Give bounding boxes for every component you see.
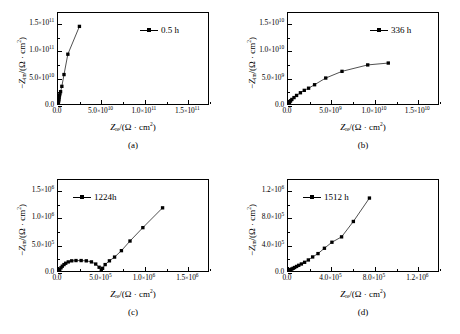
y-tick — [288, 218, 292, 219]
y-tick-label: 0.0 — [0, 268, 54, 276]
x-tick — [210, 102, 211, 104]
data-line — [289, 198, 370, 271]
legend-b: 336 h — [370, 25, 411, 35]
x-tick — [375, 100, 376, 104]
y-tick — [58, 246, 62, 247]
panel-caption-d: (d) — [287, 307, 439, 317]
y-tick — [288, 92, 290, 93]
x-tick-label: 5.0×1010 — [88, 107, 113, 115]
legend-line-left-icon — [73, 197, 80, 198]
y-tick — [58, 65, 60, 66]
legend-label-a: 0.5 h — [161, 25, 179, 35]
x-axis-title-b: Zre/(Ω · cm2) — [287, 122, 439, 132]
data-point — [330, 241, 333, 244]
data-point — [303, 89, 306, 92]
x-tick — [80, 269, 81, 271]
x-tick — [375, 267, 376, 271]
x-tick — [101, 267, 102, 271]
y-tick — [288, 24, 292, 25]
data-point — [62, 73, 65, 76]
x-tick — [123, 269, 124, 271]
x-axis-title-c: Zre/(Ω · cm2) — [57, 289, 209, 299]
data-point — [70, 259, 73, 262]
panel-d: −Zim/(Ω · cm2) 0.04.0×1058.0×1051.2×1060… — [230, 167, 460, 334]
data-point — [307, 258, 310, 261]
y-tick — [58, 92, 60, 93]
y-tick — [58, 24, 62, 25]
data-point — [387, 61, 390, 64]
legend-label-d: 1512 h — [324, 192, 349, 202]
y-tick-label: 0.0 — [0, 101, 54, 109]
x-tick — [188, 100, 189, 104]
data-point — [120, 249, 123, 252]
y-tick — [288, 79, 292, 80]
series-a — [58, 13, 208, 104]
y-tick — [58, 205, 60, 206]
x-tick — [440, 269, 441, 271]
data-point — [311, 255, 314, 258]
y-tick — [58, 259, 60, 260]
y-tick — [288, 232, 290, 233]
legend-line-right-icon — [314, 197, 321, 198]
data-point — [323, 247, 326, 250]
legend-c: 1224h — [73, 192, 117, 202]
data-point — [113, 255, 116, 258]
y-tick — [58, 38, 60, 39]
y-tick — [58, 79, 62, 80]
data-point — [79, 259, 82, 262]
legend-label-b: 336 h — [391, 25, 411, 35]
y-tick — [288, 205, 290, 206]
panel-b: −Zim/(Ω · cm2) 0.05.0×1091.0×10101.5×101… — [230, 0, 460, 167]
y-tick — [288, 246, 292, 247]
y-tick — [58, 51, 62, 52]
x-tick — [397, 102, 398, 104]
x-tick — [418, 267, 419, 271]
x-tick-label: 4.0×105 — [319, 274, 341, 282]
legend-line-right-icon — [151, 30, 158, 31]
x-tick — [418, 100, 419, 104]
y-tick-label: 1.0×1011 — [0, 46, 54, 54]
series-b — [288, 13, 438, 104]
data-point — [90, 260, 93, 263]
data-point — [78, 25, 81, 28]
x-tick — [210, 269, 211, 271]
y-tick-label: 4.0×105 — [230, 241, 284, 249]
data-point — [368, 196, 371, 199]
x-tick-label: 8.0×105 — [363, 274, 385, 282]
x-tick — [58, 267, 59, 271]
y-tick — [288, 259, 290, 260]
data-point — [128, 239, 131, 242]
legend-a: 0.5 h — [140, 25, 179, 35]
x-tick — [353, 102, 354, 104]
x-tick — [167, 102, 168, 104]
panel-caption-c: (c) — [57, 307, 209, 317]
y-tick-label: 5.0×109 — [230, 74, 284, 82]
legend-label-c: 1224h — [94, 192, 117, 202]
y-tick — [58, 218, 62, 219]
x-tick — [331, 100, 332, 104]
data-point — [299, 91, 302, 94]
x-tick-label: 1.5×106 — [176, 274, 198, 282]
data-line — [288, 63, 388, 104]
data-point — [108, 259, 111, 262]
x-tick — [145, 100, 146, 104]
data-point — [85, 259, 88, 262]
x-tick — [310, 269, 311, 271]
x-tick — [331, 267, 332, 271]
data-point — [94, 262, 97, 265]
data-point — [316, 252, 319, 255]
legend-line-left-icon — [140, 30, 147, 31]
x-tick — [310, 102, 311, 104]
y-tick-label: 5.0×105 — [0, 241, 54, 249]
x-axis-title-d: Zre/(Ω · cm2) — [287, 289, 439, 299]
y-tick-label: 1.5×1010 — [230, 19, 284, 27]
y-tick-label: 1.0×1010 — [230, 46, 284, 54]
y-tick — [288, 51, 292, 52]
data-point — [161, 206, 164, 209]
x-tick — [101, 100, 102, 104]
y-tick-label: 5.0×1010 — [0, 74, 54, 82]
data-point — [340, 235, 343, 238]
x-tick — [353, 269, 354, 271]
x-tick-label: 1.5×1010 — [405, 107, 430, 115]
data-point — [352, 220, 355, 223]
